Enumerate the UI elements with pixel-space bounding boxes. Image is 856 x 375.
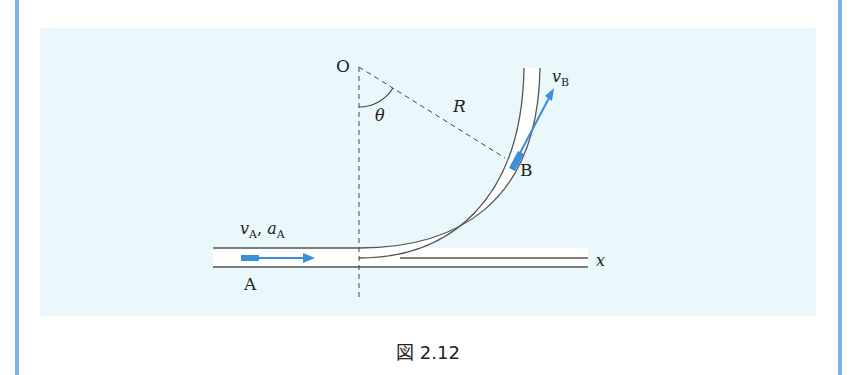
car-a [241,255,259,261]
label-vb: vB [552,69,569,85]
label-origin: O [336,58,350,75]
figure-caption: 図 2.12 [0,338,856,364]
aa-main: a [267,219,277,238]
label-radius: R [453,98,466,115]
va-sep: , [257,219,267,238]
aa-sub: A [277,228,285,241]
vb-main: v [552,67,561,86]
label-axis-x: x [596,253,605,269]
label-va-aa: vA, aA [240,221,285,237]
curve-inner-line [359,68,524,258]
vb-sub: B [561,76,569,89]
va-main: v [240,219,249,238]
track-diagram [0,0,856,375]
label-point-a: A [244,276,256,293]
velocity-b-arrowhead [545,88,554,101]
label-point-b: B [520,162,533,179]
va-sub: A [249,228,257,241]
angle-arc [359,88,393,107]
label-theta: θ [375,108,385,124]
